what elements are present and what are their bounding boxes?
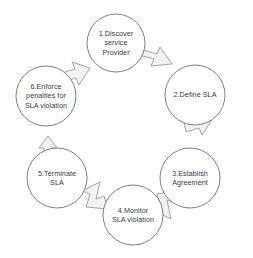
- cycle-diagram-canvas: [0, 0, 253, 258]
- node-circle-2[interactable]: [165, 65, 225, 125]
- cycle-diagram: 1.Discover service Provider 2.Define SLA…: [0, 0, 253, 258]
- node-circle-5[interactable]: [27, 148, 87, 208]
- node-circle-4[interactable]: [103, 185, 163, 245]
- node-circle-1[interactable]: [87, 14, 145, 72]
- node-circle-3[interactable]: [160, 148, 220, 208]
- node-circle-6[interactable]: [16, 66, 76, 126]
